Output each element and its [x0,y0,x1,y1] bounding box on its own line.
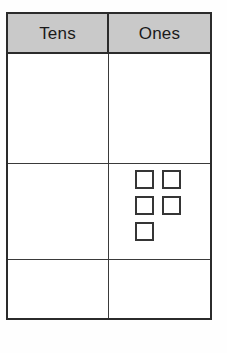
unit-square [135,222,154,241]
column-header-tens: Tens [8,14,109,52]
cell-ones-row-2[interactable] [109,164,210,259]
unit-square [135,170,154,189]
cell-tens-row-1[interactable] [8,54,109,163]
table-row [8,260,210,318]
unit-square [162,170,181,189]
cell-ones-row-1[interactable] [109,54,210,163]
table-row [8,164,210,260]
table-row [8,54,210,164]
cell-ones-row-3[interactable] [109,260,210,318]
table-header-row: Tens Ones [8,14,210,54]
unit-square [135,196,154,215]
unit-square [162,196,181,215]
table-body [8,54,210,318]
ones-block-group [135,170,199,241]
place-value-table: Tens Ones [6,12,212,320]
column-header-ones: Ones [109,14,210,52]
cell-tens-row-2[interactable] [8,164,109,259]
cell-tens-row-3[interactable] [8,260,109,318]
worksheet-sheet: Tens Ones [0,0,227,353]
